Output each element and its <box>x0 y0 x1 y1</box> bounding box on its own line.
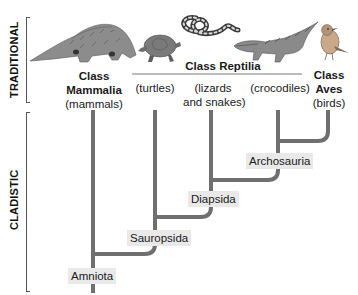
mammalia-name: Mammalia <box>62 83 126 97</box>
aves-branch <box>278 110 328 141</box>
bird-icon <box>321 25 349 61</box>
pangolin-icon <box>30 24 136 62</box>
reptilia-label: Class Reptilia <box>178 59 268 73</box>
archosauria-branch <box>211 110 278 180</box>
turtles-label: (turtles) <box>130 81 180 95</box>
clade-label-archosauria: Archosauria <box>246 153 313 169</box>
mammalia-class-word: Class <box>62 69 126 83</box>
snake-icon <box>184 17 238 33</box>
aves-class-word: Class <box>310 68 348 82</box>
aves-name: Aves <box>310 82 348 96</box>
crocodiles-label: (crocodiles) <box>247 81 313 95</box>
clade-label-sauropsida: Sauropsida <box>127 230 191 246</box>
lizards-label-line2: and snakes) <box>183 95 243 109</box>
clade-label-amniota: Amniota <box>68 268 116 284</box>
crocodile-icon <box>234 22 318 62</box>
lizards-snakes-label: (lizards and snakes) <box>183 81 243 109</box>
aves-label: Class Aves (birds) <box>310 68 348 110</box>
clade-label-diapsida: Diapsida <box>188 191 239 207</box>
mammalia-common-name: (mammals) <box>62 97 126 111</box>
aves-common-name: (birds) <box>310 96 348 110</box>
mammalia-label: Class Mammalia (mammals) <box>62 69 126 111</box>
lizards-label-line1: (lizards <box>183 81 243 95</box>
animal-illustrations <box>0 0 358 295</box>
turtle-icon <box>138 35 181 62</box>
